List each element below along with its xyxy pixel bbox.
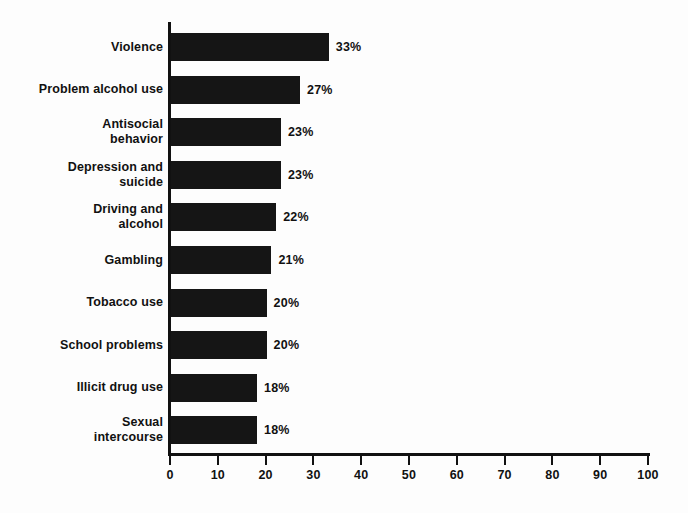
category-label-line: Violence	[111, 40, 163, 55]
category-label: Depression andsuicide	[0, 154, 163, 196]
category-label-line: Illicit drug use	[77, 380, 163, 395]
bar	[171, 203, 276, 231]
bar-value-label: 20%	[274, 324, 300, 366]
bar-value-label: 33%	[336, 26, 362, 68]
bar-row: Depression andsuicide23%	[0, 154, 688, 196]
bar-value-label: 18%	[264, 367, 290, 409]
x-axis-tick	[408, 456, 410, 465]
category-label-line: suicide	[119, 175, 163, 190]
bar	[171, 246, 271, 274]
category-label-line: alcohol	[119, 217, 163, 232]
bar-row: Problem alcohol use27%	[0, 69, 688, 111]
x-axis-tick-label: 80	[545, 468, 559, 482]
bar-value-label: 22%	[283, 196, 309, 238]
bar-row: Gambling21%	[0, 239, 688, 281]
x-axis-tick-label: 100	[637, 468, 658, 482]
bar-row: Tobacco use20%	[0, 282, 688, 324]
x-axis-tick-label: 40	[354, 468, 368, 482]
x-axis-tick	[599, 456, 601, 465]
category-label-line: Antisocial	[102, 117, 163, 132]
category-label-line: School problems	[60, 338, 163, 353]
bar	[171, 76, 300, 104]
category-label-line: Tobacco use	[86, 295, 163, 310]
bar	[171, 374, 257, 402]
x-axis-tick-label: 50	[402, 468, 416, 482]
x-axis-tick	[504, 456, 506, 465]
bar-value-label: 27%	[307, 69, 333, 111]
bar-value-label: 21%	[278, 239, 304, 281]
bar	[171, 416, 257, 444]
category-label-line: Sexual	[122, 415, 163, 430]
x-axis-tick-label: 70	[497, 468, 511, 482]
x-axis-tick	[360, 456, 362, 465]
category-label-line: behavior	[110, 132, 163, 147]
category-label: Driving andalcohol	[0, 196, 163, 238]
bar-value-label: 18%	[264, 409, 290, 451]
x-axis-tick-label: 60	[450, 468, 464, 482]
category-label: Sexualintercourse	[0, 409, 163, 451]
bar-value-label: 20%	[274, 282, 300, 324]
x-axis-tick	[647, 456, 649, 465]
x-axis-tick	[551, 456, 553, 465]
category-label: School problems	[0, 324, 163, 366]
category-label: Illicit drug use	[0, 367, 163, 409]
bar	[171, 161, 281, 189]
x-axis-tick	[265, 456, 267, 465]
bar-row: Antisocialbehavior23%	[0, 111, 688, 153]
category-label: Problem alcohol use	[0, 69, 163, 111]
x-axis-tick-label: 10	[211, 468, 225, 482]
bar-row: Driving andalcohol22%	[0, 196, 688, 238]
bar-value-label: 23%	[288, 111, 314, 153]
bar-row: School problems20%	[0, 324, 688, 366]
category-label: Gambling	[0, 239, 163, 281]
bar	[171, 118, 281, 146]
bar	[171, 331, 267, 359]
bar	[171, 33, 329, 61]
x-axis-tick-label: 0	[166, 468, 173, 482]
category-label-line: Depression and	[68, 160, 163, 175]
category-label: Antisocialbehavior	[0, 111, 163, 153]
bar-value-label: 23%	[288, 154, 314, 196]
x-axis-tick-label: 20	[258, 468, 272, 482]
bar-row: Sexualintercourse18%	[0, 409, 688, 451]
bar-chart: 0102030405060708090100 Violence33%Proble…	[0, 0, 688, 513]
x-axis-tick	[312, 456, 314, 465]
x-axis-tick	[169, 456, 171, 465]
category-label: Violence	[0, 26, 163, 68]
category-label-line: Problem alcohol use	[39, 82, 163, 97]
x-axis-tick	[217, 456, 219, 465]
category-label-line: intercourse	[94, 430, 163, 445]
bar	[171, 289, 267, 317]
category-label-line: Driving and	[93, 202, 163, 217]
category-label-line: Gambling	[105, 253, 163, 268]
x-axis-tick-label: 90	[593, 468, 607, 482]
x-axis-tick	[456, 456, 458, 465]
bar-row: Violence33%	[0, 26, 688, 68]
x-axis-tick-label: 30	[306, 468, 320, 482]
bar-row: Illicit drug use18%	[0, 367, 688, 409]
category-label: Tobacco use	[0, 282, 163, 324]
